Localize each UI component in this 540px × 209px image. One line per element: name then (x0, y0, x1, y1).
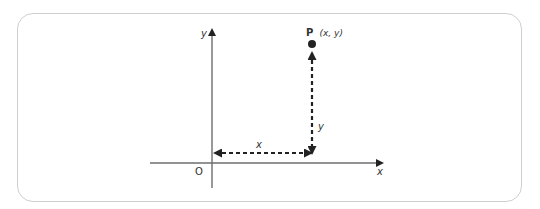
point-label: P (x, y) (306, 27, 343, 38)
cartesian-diagram: y P (x, y) y x O x (0, 0, 540, 209)
horizontal-dimension-label: x (255, 139, 262, 150)
point-coords: (x, y) (320, 28, 343, 38)
point-p-marker (308, 40, 316, 48)
vertical-dimension-label: y (317, 121, 325, 132)
point-name: P (306, 27, 313, 38)
origin-label: O (195, 166, 203, 177)
x-axis-label: x (376, 166, 383, 177)
y-axis-label: y (200, 28, 208, 39)
